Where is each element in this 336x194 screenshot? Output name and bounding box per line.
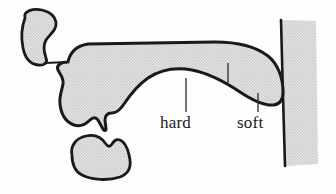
label-soft: soft <box>237 113 263 132</box>
pharyngeal-wall-band <box>281 20 318 166</box>
label-hard: hard <box>160 113 191 132</box>
lower-lip-shape <box>72 135 131 179</box>
palate-diagram-svg: hard soft <box>0 0 336 194</box>
figure-container: hard soft <box>0 0 336 194</box>
